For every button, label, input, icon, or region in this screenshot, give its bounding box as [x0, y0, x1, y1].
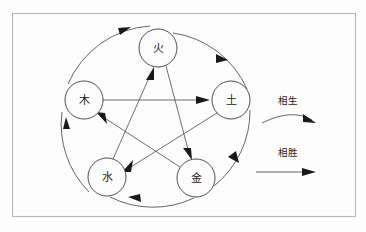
gen-edge-metal-to-water	[110, 194, 194, 207]
legend-curved-arrow-head	[303, 114, 316, 123]
diagram-page: 火 土 金 水 木 相生	[0, 0, 366, 232]
overcoming-cycle-group	[96, 66, 217, 172]
node-label-water: 水	[102, 171, 113, 184]
gen-edge-earth-to-metal	[214, 110, 250, 186]
gen-edge-wood-to-fire	[68, 26, 150, 84]
gen-arc-path	[173, 33, 247, 89]
gen-arc-path	[68, 26, 150, 84]
over-line-path	[113, 71, 152, 159]
over-edge-water-to-fire	[113, 67, 154, 159]
gen-arrow-head	[128, 194, 141, 202]
legend-label-overcoming: 相胜	[278, 147, 298, 158]
node-label-fire: 火	[153, 42, 164, 55]
over-arrow-head	[183, 148, 192, 160]
over-edge-wood-to-earth	[103, 96, 210, 104]
node-water[interactable]: 水	[88, 158, 126, 196]
node-wood[interactable]: 木	[65, 81, 103, 119]
node-fire[interactable]: 火	[139, 29, 177, 67]
legend-group: 相生 相胜	[256, 95, 316, 177]
wuxing-diagram: 火 土 金 水 木 相生	[0, 0, 366, 232]
node-label-earth: 土	[226, 94, 237, 107]
gen-arrow-head	[228, 151, 239, 163]
gen-arrow-head	[63, 117, 70, 129]
over-line-path	[166, 66, 190, 157]
gen-arc-path	[214, 110, 250, 186]
legend-label-generation: 相生	[278, 95, 298, 106]
over-arrow-head	[146, 67, 154, 80]
gen-edge-fire-to-earth	[173, 33, 247, 89]
over-arrow-head	[196, 96, 210, 104]
node-metal[interactable]: 金	[177, 159, 215, 197]
gen-arc-path	[110, 197, 194, 207]
node-earth[interactable]: 土	[212, 81, 250, 119]
legend-item-generation: 相生	[262, 95, 316, 124]
gen-edge-water-to-wood	[61, 112, 89, 192]
node-label-wood: 木	[79, 94, 90, 107]
node-label-metal: 金	[191, 171, 202, 185]
element-nodes-group: 火 土 金 水 木	[65, 29, 250, 197]
legend-straight-arrow-head	[302, 168, 316, 176]
over-edge-fire-to-metal	[166, 66, 192, 160]
gen-arrow-head	[118, 27, 131, 35]
legend-item-overcoming: 相胜	[256, 147, 316, 177]
